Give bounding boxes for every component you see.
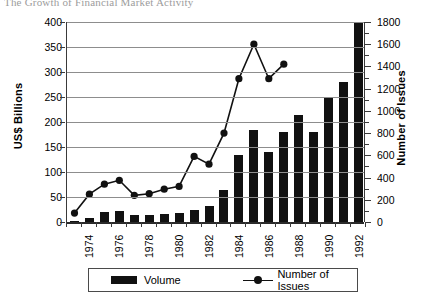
issues-point-1976 [101, 181, 108, 188]
legend-label-volume: Volume [144, 274, 181, 286]
gridline [67, 122, 364, 123]
line-swatch-icon [243, 275, 271, 285]
x-axis-label-1974: 1974 [83, 235, 95, 258]
chart-root: The Growth of Financial Market Activity … [0, 0, 425, 299]
gridline [67, 72, 364, 73]
right-axis-title: Number of Issues [395, 58, 407, 178]
x-axis-label-1984: 1984 [233, 235, 245, 258]
x-axis-labels: 1974197619781980198219841986198819901992 [0, 224, 425, 270]
left-axis-tick [60, 47, 65, 48]
gridline [67, 22, 364, 23]
issues-point-1988 [280, 61, 287, 68]
bar-swatch-icon [111, 276, 137, 284]
left-axis-tick [60, 172, 65, 173]
right-axis-tick-label: 200 [377, 195, 395, 205]
issues-point-1984 [220, 130, 227, 137]
left-axis-tick [60, 222, 65, 223]
gridline [67, 47, 364, 48]
left-axis-tick-label: 100 [4, 167, 62, 177]
x-axis-label-1992: 1992 [353, 235, 365, 258]
right-axis-tick-label: 400 [377, 173, 395, 183]
issues-point-1982 [191, 153, 198, 160]
left-axis-tick [60, 72, 65, 73]
issues-point-1977 [116, 177, 123, 184]
right-axis-tick-label: 1600 [377, 39, 400, 49]
gridline [67, 197, 364, 198]
left-axis-tick [60, 197, 65, 198]
left-axis-tick [60, 122, 65, 123]
left-axis-tick-label: 250 [4, 92, 62, 102]
gridline [67, 147, 364, 148]
issues-point-1985 [235, 75, 242, 82]
gridline [67, 172, 364, 173]
x-axis-label-1986: 1986 [263, 235, 275, 258]
x-axis-label-1990: 1990 [323, 235, 335, 258]
issues-point-1974 [71, 210, 78, 217]
left-axis-tick [60, 97, 65, 98]
left-axis-tick [60, 147, 65, 148]
issues-point-1987 [265, 75, 272, 82]
issues-point-1980 [161, 186, 168, 193]
left-axis-tick-label: 400 [4, 17, 62, 27]
left-axis-tick-label: 350 [4, 42, 62, 52]
x-axis-label-1980: 1980 [173, 235, 185, 258]
legend-item-volume: Volume [111, 274, 181, 286]
issues-point-1983 [205, 161, 212, 168]
right-axis-tick-label: 1800 [377, 17, 400, 27]
x-axis-label-1982: 1982 [203, 235, 215, 258]
gridline [67, 97, 364, 98]
right-axis-tick-label: 800 [377, 128, 395, 138]
plot-area [66, 22, 365, 222]
x-axis-label-1976: 1976 [113, 235, 125, 258]
left-axis-tick-label: 200 [4, 117, 62, 127]
right-axis-tick-label: 600 [377, 150, 395, 160]
chart-legend: Volume Number of Issues [88, 268, 358, 292]
left-axis-tick-label: 300 [4, 67, 62, 77]
left-axis-tick [60, 22, 65, 23]
left-axis-tick-label: 150 [4, 142, 62, 152]
x-axis-label-1978: 1978 [143, 235, 155, 258]
legend-label-issues: Number of Issues [277, 268, 357, 292]
x-axis-label-1988: 1988 [293, 235, 305, 258]
issues-point-1981 [176, 183, 183, 190]
left-axis-tick-label: 50 [4, 192, 62, 202]
legend-item-issues: Number of Issues [243, 268, 357, 292]
